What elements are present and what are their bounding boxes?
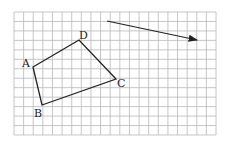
grid <box>14 12 216 135</box>
vertex-label-a: A <box>21 57 31 70</box>
vertex-label-b: B <box>34 107 42 120</box>
vertex-label-c: C <box>117 77 125 90</box>
diagram-canvas: ABCD <box>0 0 229 146</box>
vertex-label-d: D <box>79 29 88 42</box>
translation-vector-arrow <box>107 21 197 40</box>
